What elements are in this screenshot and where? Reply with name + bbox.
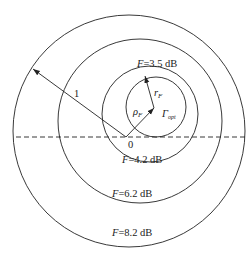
rf-label: rF — [154, 87, 163, 100]
label-f-4-2: F=4.2 dB — [121, 154, 162, 165]
circle-f-4-2 — [102, 66, 198, 162]
label-f-6-2: F=6.2 dB — [111, 188, 152, 199]
rf-radius-arrow — [145, 76, 154, 108]
rho-label: ρF — [132, 106, 143, 119]
label-f-3-5: F=3.5 dB — [136, 58, 177, 69]
circle-f-8-2 — [13, 15, 245, 247]
origin-label: 0 — [128, 139, 133, 150]
unit-radius-label: 1 — [74, 88, 79, 99]
unit-radius-arrow — [33, 69, 126, 137]
gamma-opt-label: Γopt — [161, 108, 176, 120]
noise-figure-circles-diagram: 1 0 ρF rF Γopt F=3.5 dB F=4.2 dB F=6.2 d… — [0, 0, 251, 265]
label-f-8-2: F=8.2 dB — [111, 227, 152, 238]
